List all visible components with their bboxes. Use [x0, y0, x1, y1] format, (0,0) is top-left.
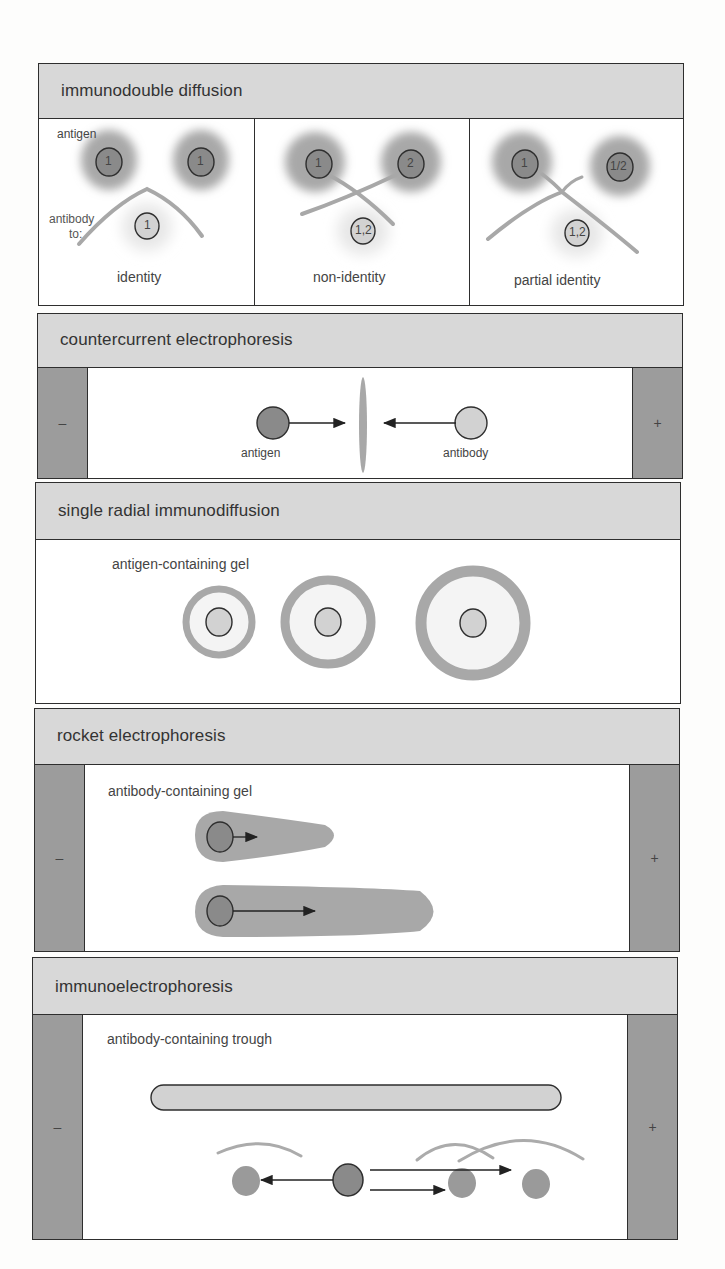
panel-header: single radial immunodiffusion — [36, 483, 680, 540]
panel-header: immunodouble diffusion — [39, 64, 683, 119]
antibody-well — [455, 407, 487, 439]
antigen-well — [333, 1164, 363, 1196]
precipitin-arc — [218, 1144, 301, 1156]
well-label: 1/2 — [610, 159, 627, 173]
cell-caption: partial identity — [514, 272, 600, 288]
immunoelectrophoresis-diagram — [33, 1015, 679, 1241]
panel-header: immunoelectrophoresis — [33, 958, 677, 1015]
panel-countercurrent-electrophoresis: countercurrent electrophoresis – + antig… — [37, 313, 683, 479]
antigen-well — [207, 822, 233, 852]
cell-non-identity: 1 2 1,2 non-identity — [254, 119, 469, 305]
panel-rocket-electrophoresis: rocket electrophoresis – + antibody-cont… — [34, 708, 680, 952]
cell-partial-identity: 1 1/2 1,2 partial identity — [469, 119, 683, 305]
separated-antigen — [232, 1166, 260, 1196]
panel-title: immunodouble diffusion — [61, 81, 242, 101]
antibody-to-label: to: — [69, 227, 82, 241]
precipitin-arc — [417, 1144, 493, 1160]
panel-body: – + antibody-containing trough — [33, 1015, 677, 1239]
precipitin-band — [359, 377, 367, 473]
panel-header: rocket electrophoresis — [35, 709, 679, 765]
panel-body: – + antibody-containing gel — [35, 765, 679, 951]
precipitin-spur — [542, 174, 562, 192]
panel-single-radial-immunodiffusion: single radial immunodiffusion antigen-co… — [35, 482, 681, 704]
well-label: 2 — [407, 156, 414, 170]
countercurrent-diagram — [38, 368, 684, 480]
antigen-label: antigen — [57, 127, 96, 141]
antigen-well — [206, 608, 232, 636]
panel-title: rocket electrophoresis — [57, 726, 226, 746]
panel-title: single radial immunodiffusion — [58, 501, 280, 521]
panel-header: countercurrent electrophoresis — [38, 314, 682, 368]
well-label: 1 — [315, 156, 322, 170]
antibody-label: antibody — [49, 212, 94, 226]
well-label: 1 — [197, 154, 204, 168]
antigen-well — [460, 609, 486, 637]
antibody-label: antibody — [443, 446, 488, 460]
cell-caption: identity — [117, 269, 161, 285]
well-label: 1 — [521, 156, 528, 170]
cell-caption: non-identity — [313, 269, 385, 285]
well-label: 1 — [105, 154, 112, 168]
panel-immunoelectrophoresis: immunoelectrophoresis – + antibody-conta… — [32, 957, 678, 1240]
well-label: 1,2 — [569, 225, 586, 239]
antigen-well — [257, 407, 289, 439]
precipitin-spur — [562, 177, 582, 192]
panel-title: immunoelectrophoresis — [55, 977, 233, 997]
precipitin-arc — [459, 1140, 583, 1161]
rocket-diagram — [35, 765, 681, 953]
antigen-label: antigen — [241, 446, 280, 460]
panel-body: 1 1 1 antigen antibody to: identity 1 2 … — [39, 119, 683, 305]
well-label: 1 — [144, 218, 151, 232]
separated-antigen — [448, 1168, 476, 1198]
antigen-well — [315, 608, 341, 636]
panel-title: countercurrent electrophoresis — [60, 330, 293, 350]
cell-identity: 1 1 1 antigen antibody to: identity — [39, 119, 254, 305]
antibody-trough — [151, 1085, 561, 1110]
radial-diagram — [36, 540, 682, 705]
well-label: 1,2 — [355, 223, 372, 237]
separated-antigen — [522, 1169, 550, 1199]
antigen-well — [207, 896, 233, 926]
panel-immunodouble-diffusion: immunodouble diffusion 1 1 1 antigen — [38, 63, 684, 306]
panel-body: – + antigen antibody — [38, 368, 682, 478]
panel-body: antigen-containing gel — [36, 540, 680, 703]
